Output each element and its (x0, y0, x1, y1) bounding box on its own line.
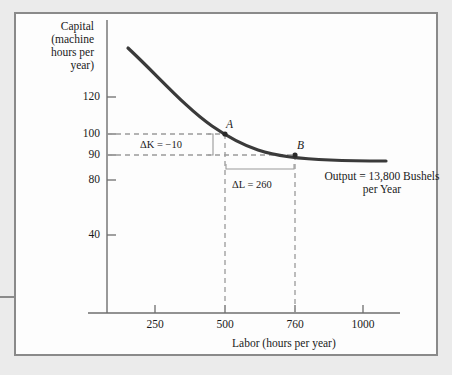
point-label-a: A (226, 118, 233, 131)
y-tick-label-120: 120 (60, 90, 100, 102)
delta-l-bracket (226, 164, 294, 169)
annotation-delta-l: ΔL = 260 (232, 179, 272, 191)
y-tick-label-80: 80 (60, 173, 100, 185)
y-tick-label-90: 90 (60, 148, 100, 160)
x-axis-title: Labor (hours per year) (232, 337, 336, 350)
x-tick-label-500: 500 (200, 318, 250, 330)
point-label-b: B (297, 139, 304, 152)
data-point-a (222, 131, 227, 136)
y-tick-marks (107, 97, 116, 235)
x-tick-label-250: 250 (130, 318, 180, 330)
x-tick-label-760: 760 (270, 318, 320, 330)
annotation-output: Output = 13,800 Bushels per Year (322, 170, 442, 196)
guide-lines (107, 134, 297, 313)
y-axis-title: Capital (machine hours per year) (18, 20, 94, 72)
page-background: Capital (machine hours per year) Labor (… (0, 0, 452, 375)
y-tick-label-100: 100 (60, 127, 100, 139)
y-tick-label-40: 40 (60, 228, 100, 240)
annotation-delta-k: ΔK = −10 (140, 139, 182, 151)
delta-k-bracket (208, 134, 213, 155)
x-tick-marks (155, 305, 363, 313)
x-tick-label-1000: 1000 (338, 318, 388, 330)
data-point-b (292, 152, 297, 157)
